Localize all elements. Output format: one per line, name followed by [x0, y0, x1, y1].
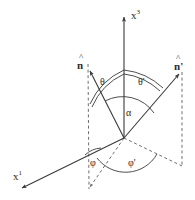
canvas-background [0, 0, 195, 200]
geometry-canvas: x3 x1 ^ n ^ n' θ θ' α φ φ' [0, 0, 195, 200]
scattered-vector-prime: ' [180, 60, 183, 72]
x3-axis-label-sup: 3 [137, 8, 141, 16]
scattered-vector-label: n' [174, 60, 183, 72]
theta-label: θ [100, 76, 105, 87]
x1-axis-label-sup: 1 [19, 169, 23, 177]
phi-prime-label: φ' [128, 157, 136, 168]
incident-vector-label: n [77, 59, 83, 71]
alpha-label: α [126, 107, 132, 118]
phi-label: φ [90, 157, 96, 168]
scattering-geometry-diagram: x3 x1 ^ n ^ n' θ θ' α φ φ' [0, 0, 195, 200]
theta-prime-label: θ' [138, 76, 145, 87]
